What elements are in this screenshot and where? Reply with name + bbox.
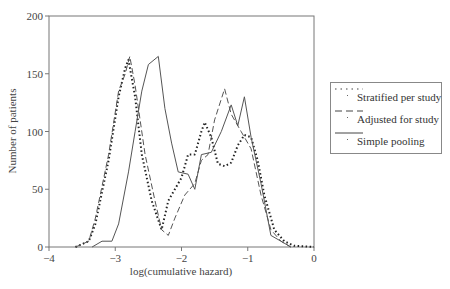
legend-item-simple: Simple pooling	[331, 129, 441, 151]
legend-label: Stratified per study	[357, 91, 441, 103]
x-tick-label: −3	[109, 252, 121, 264]
y-tick-label: 100	[27, 126, 44, 138]
legend-marker	[347, 139, 348, 140]
series-dotted-line	[76, 60, 315, 247]
plot-border	[49, 16, 314, 247]
x-tick-label: 0	[311, 252, 317, 264]
legend-marker	[347, 117, 348, 118]
x-axis-title: log(cumulative hazard)	[130, 265, 233, 278]
y-tick-label: 0	[38, 241, 44, 253]
legend-item-adjusted: Adjusted for study	[331, 107, 441, 129]
x-tick-label: −1	[242, 252, 254, 264]
y-tick-label: 200	[27, 10, 44, 22]
y-tick-label: 150	[27, 68, 44, 80]
y-axis-title: Number of patients	[6, 89, 18, 174]
legend-item-stratified: Stratified per study	[331, 85, 441, 107]
plot-frame	[49, 16, 314, 247]
series-layer	[76, 56, 315, 247]
x-tick-label: −2	[176, 252, 188, 264]
x-tick-label: −4	[43, 252, 55, 264]
legend-label: Simple pooling	[357, 135, 425, 147]
y-tick-label: 50	[32, 183, 44, 195]
legend-label: Adjusted for study	[357, 113, 439, 125]
legend: Stratified per study Adjusted for study …	[330, 82, 442, 154]
series-dashed-line	[76, 56, 291, 247]
legend-marker	[347, 95, 348, 96]
series-solid-line	[92, 56, 291, 247]
